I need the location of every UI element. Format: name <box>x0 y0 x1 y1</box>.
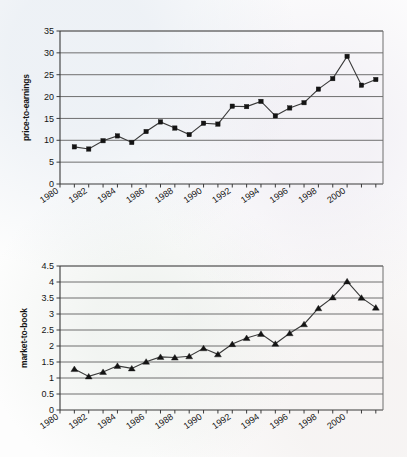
ytick-label-2.5: 2.5 <box>41 325 54 335</box>
xtick-label-group-1994: 1994 <box>239 411 261 431</box>
data-point-1991 <box>216 122 220 126</box>
xtick-label-group-2000: 2000 <box>325 411 347 431</box>
xtick-label-1998: 1998 <box>296 185 318 205</box>
data-point-1997 <box>302 100 306 104</box>
xtick-label-1982: 1982 <box>67 411 89 431</box>
xtick-label-group-1982: 1982 <box>67 185 89 205</box>
data-point-1985 <box>130 140 134 144</box>
data-point-1998 <box>316 87 320 91</box>
chart-price-to-earnings: 0510152025303519801982198419861988199019… <box>0 0 407 230</box>
xtick-label-group-1994: 1994 <box>239 185 261 205</box>
xtick-label-2000: 2000 <box>325 185 347 205</box>
chart-market-to-book: 00.511.522.533.544.519801982198419861988… <box>0 230 407 457</box>
xtick-label-1988: 1988 <box>153 411 175 431</box>
xtick-label-group-1990: 1990 <box>182 411 204 431</box>
data-point-1986 <box>143 359 150 365</box>
ytick-label-2: 2 <box>49 341 54 351</box>
xtick-label-group-1984: 1984 <box>95 185 117 205</box>
xtick-label-group-1992: 1992 <box>210 185 232 205</box>
xtick-label-1996: 1996 <box>268 411 290 431</box>
data-point-1999 <box>331 76 335 80</box>
xtick-label-1994: 1994 <box>239 185 261 205</box>
xtick-label-1980: 1980 <box>38 185 60 205</box>
data-point-1996 <box>287 106 291 110</box>
xtick-label-1986: 1986 <box>124 185 146 205</box>
y-axis-title-group: price-to-earnings <box>21 74 31 141</box>
data-point-2000 <box>344 278 351 284</box>
data-point-1981 <box>71 366 78 372</box>
data-point-1994 <box>258 331 265 337</box>
xtick-label-1988: 1988 <box>153 185 175 205</box>
ytick-label-20: 20 <box>44 92 54 102</box>
xtick-label-group-1982: 1982 <box>67 411 89 431</box>
data-point-1987 <box>158 120 162 124</box>
data-point-2001 <box>359 83 363 87</box>
xtick-label-group-1986: 1986 <box>124 411 146 431</box>
chart-mb-canvas: 00.511.522.533.544.519801982198419861988… <box>0 230 407 457</box>
data-point-1992 <box>229 341 236 347</box>
xtick-label-1984: 1984 <box>95 185 117 205</box>
xtick-label-1990: 1990 <box>182 185 204 205</box>
data-point-1988 <box>173 126 177 130</box>
xtick-label-1986: 1986 <box>124 411 146 431</box>
ytick-label-15: 15 <box>44 114 54 124</box>
data-point-2000 <box>345 54 349 58</box>
ytick-label-0.5: 0.5 <box>41 389 54 399</box>
xtick-label-group-2000: 2000 <box>325 185 347 205</box>
xtick-label-group-1984: 1984 <box>95 411 117 431</box>
market-to-book-svg: 00.511.522.533.544.519801982198419861988… <box>0 230 407 457</box>
data-point-1994 <box>259 99 263 103</box>
xtick-label-1990: 1990 <box>182 411 204 431</box>
data-point-1990 <box>201 121 205 125</box>
data-point-1992 <box>230 104 234 108</box>
xtick-label-group-1996: 1996 <box>268 185 290 205</box>
y-axis-title: market-to-book <box>19 308 29 368</box>
xtick-label-group-1980: 1980 <box>38 185 60 205</box>
xtick-label-group-1998: 1998 <box>296 411 318 431</box>
xtick-label-1998: 1998 <box>296 411 318 431</box>
data-point-1981 <box>72 145 76 149</box>
xtick-label-group-1996: 1996 <box>268 411 290 431</box>
ytick-label-1.5: 1.5 <box>41 357 54 367</box>
xtick-label-group-1988: 1988 <box>153 411 175 431</box>
chart-pe-canvas: 0510152025303519801982198419861988199019… <box>0 0 407 230</box>
ytick-label-4: 4 <box>49 277 54 287</box>
xtick-label-group-1990: 1990 <box>182 185 204 205</box>
data-point-1989 <box>187 132 191 136</box>
data-point-1986 <box>144 129 148 133</box>
xtick-label-1980: 1980 <box>38 411 60 431</box>
xtick-label-group-1998: 1998 <box>296 185 318 205</box>
xtick-label-group-1986: 1986 <box>124 185 146 205</box>
xtick-label-1994: 1994 <box>239 411 261 431</box>
y-axis-title-group: market-to-book <box>19 308 29 368</box>
xtick-label-group-1980: 1980 <box>38 411 60 431</box>
data-point-1984 <box>114 363 121 369</box>
ytick-label-5: 5 <box>49 157 54 167</box>
xtick-label-1992: 1992 <box>210 185 232 205</box>
data-point-1993 <box>244 104 248 108</box>
xtick-label-1996: 1996 <box>268 185 290 205</box>
xtick-label-1984: 1984 <box>95 411 117 431</box>
data-point-1982 <box>87 147 91 151</box>
xtick-label-1982: 1982 <box>67 185 89 205</box>
data-point-2002 <box>374 77 378 81</box>
y-axis-title: price-to-earnings <box>21 74 31 141</box>
data-point-1983 <box>100 369 107 375</box>
ytick-label-3: 3 <box>49 309 54 319</box>
ytick-label-25: 25 <box>44 70 54 80</box>
xtick-label-2000: 2000 <box>325 411 347 431</box>
xtick-label-group-1992: 1992 <box>210 411 232 431</box>
xtick-label-1992: 1992 <box>210 411 232 431</box>
data-point-1996 <box>286 330 293 336</box>
ytick-label-35: 35 <box>44 26 54 36</box>
ytick-label-30: 30 <box>44 48 54 58</box>
xtick-label-group-1988: 1988 <box>153 185 175 205</box>
data-point-1995 <box>273 114 277 118</box>
ytick-label-1: 1 <box>49 373 54 383</box>
ytick-label-3.5: 3.5 <box>41 293 54 303</box>
ytick-label-4.5: 4.5 <box>41 261 54 271</box>
data-point-1983 <box>101 139 105 143</box>
data-point-1984 <box>115 134 119 138</box>
ytick-label-10: 10 <box>44 135 54 145</box>
price-to-earnings-svg: 0510152025303519801982198419861988199019… <box>0 0 407 230</box>
